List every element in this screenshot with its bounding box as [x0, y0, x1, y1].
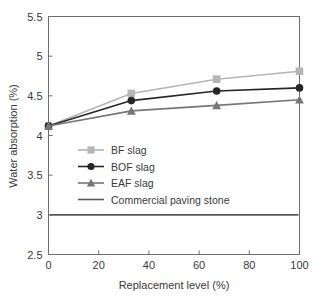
- water-absorption-line-chart: 2.533.544.555.5 020406080100 BF slagBOF …: [0, 0, 318, 300]
- legend-label: Commercial paving stone: [111, 194, 230, 206]
- legend-label: EAF slag: [111, 177, 154, 189]
- legend-marker-circle-icon: [87, 163, 94, 170]
- y-tick-label: 5.5: [27, 11, 42, 23]
- x-tick-label: 80: [243, 259, 255, 271]
- data-point-marker: [213, 75, 221, 83]
- y-tick-label: 5: [36, 50, 42, 62]
- chart-figure: 2.533.544.555.5 020406080100 BF slagBOF …: [0, 0, 318, 300]
- y-tick-label: 4.5: [27, 90, 42, 102]
- y-tick-label: 3.5: [27, 169, 42, 181]
- y-tick-label: 3: [36, 209, 42, 221]
- x-tick-label: 100: [290, 259, 308, 271]
- data-point-marker: [213, 87, 221, 95]
- x-tick-label: 20: [93, 259, 105, 271]
- data-point-marker: [128, 97, 136, 105]
- y-tick-label: 2.5: [27, 249, 42, 261]
- y-axis-title: Water absorption (%): [7, 84, 19, 188]
- y-tick-label: 4: [36, 130, 42, 142]
- legend-label: BF slag: [111, 144, 147, 156]
- plot-area-border: [49, 17, 300, 255]
- data-point-marker: [296, 84, 304, 92]
- legend-marker-square-icon: [87, 146, 94, 153]
- x-tick-label: 0: [45, 259, 51, 271]
- legend-label: BOF slag: [111, 161, 155, 173]
- x-axis-title: Replacement level (%): [119, 279, 230, 291]
- data-point-marker: [128, 90, 136, 98]
- x-tick-label: 40: [143, 259, 155, 271]
- x-tick-label: 60: [193, 259, 205, 271]
- data-point-marker: [296, 67, 304, 75]
